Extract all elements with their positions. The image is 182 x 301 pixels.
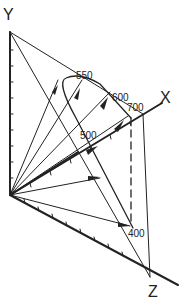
arrowheads [52, 85, 130, 227]
wavelength-label-500: 500 [80, 131, 97, 141]
wavelength-label-700: 700 [127, 103, 144, 113]
y-axis-label: Y [3, 7, 14, 23]
x-axis-label: X [160, 90, 171, 106]
wavelength-label-400: 400 [128, 229, 145, 239]
x-to-z-edge [143, 114, 150, 277]
diagram-canvas [0, 0, 182, 301]
z-axis-label: Z [148, 284, 158, 300]
wavelength-label-550: 550 [76, 71, 93, 81]
y-to-z-edge [10, 32, 150, 277]
z-axis [10, 195, 178, 285]
